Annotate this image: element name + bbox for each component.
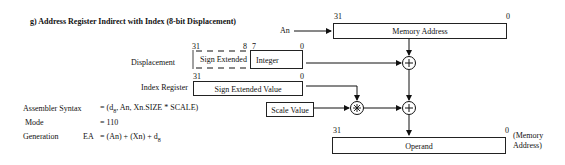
displacement-sign-extended: Sign Extended (200, 56, 247, 64)
operand-note-line2: Address) (513, 142, 542, 150)
displacement-bit-8: 8 (243, 43, 247, 51)
multiply-icon (351, 102, 364, 115)
assembler-syntax-label: Assembler Syntax (23, 105, 81, 113)
memory-address-label: Memory Address (334, 28, 506, 36)
operand-box: Operand (332, 137, 506, 154)
operand-bit-low: 0 (505, 127, 509, 135)
index-register-label: Index Register (141, 84, 188, 92)
operand-label: Operand (333, 143, 505, 151)
operand-note-line1: (Memory (513, 132, 543, 140)
memory-address-box: Memory Address (333, 23, 507, 39)
scale-value-box: Scale Value (266, 102, 314, 117)
generation-value: = (An) + (Xn) + d8 (100, 133, 161, 143)
index-register-bit-high: 31 (193, 73, 201, 81)
adder-1-icon (403, 57, 416, 70)
generation-label: Generation (23, 133, 59, 141)
index-register-value: Sign Extended Value (194, 86, 302, 94)
mode-value: = 110 (100, 119, 118, 127)
index-register-box: Sign Extended Value (193, 81, 303, 96)
displacement-label: Displacement (131, 59, 175, 67)
displacement-integer-box: Integer (250, 50, 303, 69)
memory-address-bit-low: 0 (506, 13, 510, 21)
displacement-integer-label: Integer (256, 57, 279, 65)
displacement-bit-high: 31 (192, 43, 200, 51)
adder-2-icon (403, 102, 416, 115)
assembler-syntax-value: = (d8, An, Xn.SIZE * SCALE) (100, 104, 198, 114)
memory-address-bit-high: 31 (334, 13, 342, 21)
an-label: An (280, 27, 290, 35)
operand-bit-high: 31 (333, 127, 341, 135)
index-register-bit-low: 0 (300, 73, 304, 81)
mode-label: Mode (25, 119, 44, 127)
scale-value-label: Scale Value (267, 107, 313, 115)
generation-ea: EA (83, 133, 94, 141)
